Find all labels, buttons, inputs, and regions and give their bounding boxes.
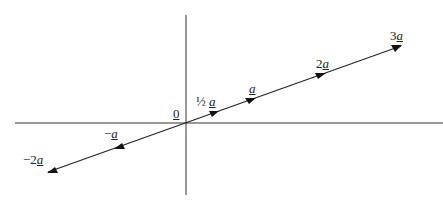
label-minus-a: −a: [104, 127, 118, 140]
label-a: a: [249, 82, 256, 95]
arrowhead-half-a: [209, 111, 219, 117]
arrowhead-2a: [315, 73, 326, 79]
label-minus-2a: −2a: [23, 153, 43, 166]
vector-diagram: 0 ½ a a 2a 3a −a −2a: [0, 0, 443, 205]
label-half-a: ½ a: [196, 95, 216, 108]
arrowhead-minus-2a: [47, 167, 58, 173]
axes-and-vectors: [0, 0, 443, 205]
vector-line: [48, 46, 401, 172]
origin-label: 0: [173, 107, 180, 120]
label-2a: 2a: [316, 57, 329, 70]
label-3a: 3a: [390, 29, 403, 42]
arrowhead-minus-a: [114, 143, 125, 149]
